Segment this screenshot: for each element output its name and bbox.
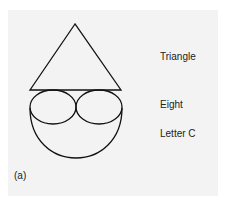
shape-drawing	[0, 0, 226, 204]
triangle-shape	[30, 24, 121, 90]
letter-c-arc	[30, 108, 122, 158]
eight-label: Eight	[160, 99, 183, 110]
eight-left-loop	[30, 90, 76, 124]
letter-c-label: Letter C	[160, 128, 196, 139]
panel-label: (a)	[14, 170, 26, 181]
eight-right-loop	[76, 90, 122, 124]
triangle-label: Triangle	[160, 51, 196, 62]
